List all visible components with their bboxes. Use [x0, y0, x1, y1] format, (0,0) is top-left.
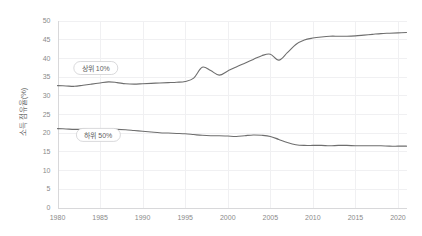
x-tick-label: 2000	[220, 214, 236, 221]
y-axis-tick-labels: 05101520253035404550	[43, 17, 51, 211]
y-tick-label: 5	[47, 185, 51, 192]
y-tick-label: 10	[43, 167, 51, 174]
y-tick-label: 50	[43, 17, 51, 24]
gridlines	[58, 21, 407, 208]
x-tick-label: 1985	[92, 214, 108, 221]
x-tick-label: 2010	[305, 214, 321, 221]
x-tick-label: 1990	[135, 214, 151, 221]
y-tick-label: 35	[43, 73, 51, 80]
x-tick-label: 1995	[177, 214, 193, 221]
y-tick-label: 20	[43, 129, 51, 136]
y-tick-label: 45	[43, 36, 51, 43]
series-line	[58, 32, 407, 86]
x-tick-label: 2005	[263, 214, 279, 221]
series-inline-labels: 상위 10%하위 50%	[74, 62, 121, 142]
income-share-chart: 05101520253035404550 1980198519901995200…	[0, 0, 422, 236]
y-tick-label: 30	[43, 92, 51, 99]
y-tick-label: 40	[43, 55, 51, 62]
series-label: 상위 10%	[74, 62, 118, 75]
y-tick-label: 25	[43, 111, 51, 118]
y-axis-title-text: 소득 점유율(%)	[18, 87, 28, 136]
x-axis-tick-labels: 198019851990199520002005201020152020	[50, 214, 406, 221]
x-tick-label: 2015	[348, 214, 364, 221]
y-axis-title: 소득 점유율(%)	[18, 87, 28, 136]
y-tick-label: 15	[43, 148, 51, 155]
series-label-text: 하위 50%	[84, 131, 112, 140]
x-tick-label: 1980	[50, 214, 66, 221]
chart-canvas: 05101520253035404550 1980198519901995200…	[0, 0, 422, 236]
series-label: 하위 50%	[76, 128, 120, 141]
x-tick-label: 2020	[390, 214, 406, 221]
series-label-text: 상위 10%	[82, 64, 110, 73]
y-tick-label: 0	[47, 204, 51, 211]
